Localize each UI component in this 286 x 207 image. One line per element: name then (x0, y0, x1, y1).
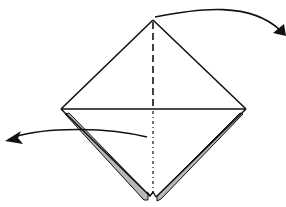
edge-bottom-right (156, 109, 246, 197)
right-flap-layer (157, 113, 243, 201)
diagram-canvas (0, 0, 286, 207)
origami-diagram (0, 0, 286, 207)
bottom-flaps (65, 113, 243, 201)
edge-top-left (61, 20, 153, 109)
fold-left-arrow (5, 129, 147, 144)
edge-bottom-left (61, 109, 150, 196)
arrow-curve (155, 9, 280, 30)
edge-top-right (153, 20, 246, 109)
fold-back-right-arrow (155, 9, 286, 36)
arrow-head-icon (5, 131, 23, 144)
